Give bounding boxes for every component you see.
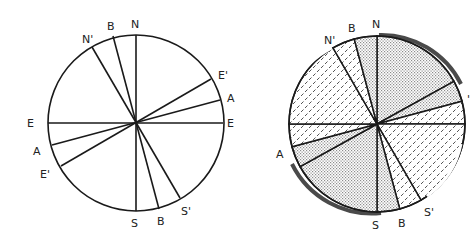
- direction-label: S: [131, 217, 138, 230]
- direction-label: A: [227, 92, 235, 105]
- direction-label: E': [218, 69, 228, 82]
- direction-label: E: [27, 117, 34, 130]
- direction-label: N: [372, 18, 380, 31]
- direction-label: ': [467, 93, 470, 106]
- direction-label: N': [324, 34, 335, 47]
- direction-label: S: [372, 219, 379, 232]
- left-circle-diagram: NBN'E'AEEAE'SBS': [27, 18, 235, 230]
- direction-label: B: [157, 215, 165, 228]
- direction-label: S': [181, 205, 191, 218]
- direction-label: S': [424, 206, 434, 219]
- direction-label: B: [398, 217, 406, 230]
- diagram-canvas: NBN'E'AEEAE'SBS' NBN'ASBS'': [0, 0, 471, 243]
- direction-label: E': [40, 168, 50, 181]
- direction-label: B: [348, 22, 356, 35]
- direction-label: N: [131, 18, 139, 31]
- direction-label: B: [107, 20, 115, 33]
- direction-label: N': [82, 33, 93, 46]
- direction-label: E: [227, 117, 234, 130]
- direction-label: A: [276, 148, 284, 161]
- right-circle-diagram: NBN'ASBS'': [276, 18, 470, 232]
- direction-label: A: [33, 145, 41, 158]
